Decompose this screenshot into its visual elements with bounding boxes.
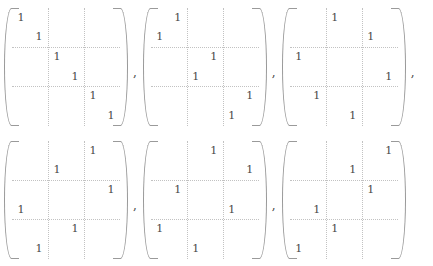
- cell-r1-c1: [290, 8, 308, 28]
- cell-r4-c2: [169, 66, 187, 86]
- cell-r2-c3: [187, 27, 205, 47]
- cell-r3-c5: [84, 180, 102, 200]
- cell-r1-c2: [308, 8, 326, 28]
- cell-r4-c1: [151, 199, 169, 219]
- matrix-separator: ,: [271, 66, 278, 78]
- cell-r2-c4: [205, 160, 223, 180]
- cell-r1-c5: 1: [84, 141, 102, 161]
- cell-r3-c1: [151, 180, 169, 200]
- cell-r5-c3: 1: [326, 219, 344, 239]
- cell-r1-c3: [326, 141, 344, 161]
- cell-r6-c5: 1: [223, 106, 241, 126]
- cell-r4-c5: [223, 66, 241, 86]
- cell-r3-c5: [223, 180, 241, 200]
- cell-r3-c2: [169, 47, 187, 67]
- cell-r6-c4: [66, 106, 84, 126]
- cell-r2-c3: [326, 27, 344, 47]
- matrix-4-body: 111111: [0, 141, 132, 259]
- cell-r2-c2: [169, 160, 187, 180]
- cell-r1-c5: [362, 8, 380, 28]
- cell-r3-c4: [344, 47, 362, 67]
- cell-r3-c3: 1: [48, 47, 66, 67]
- cell-r4-c5: [84, 66, 102, 86]
- cell-r4-c4: [205, 199, 223, 219]
- cell-r4-c2: [30, 199, 48, 219]
- cell-r2-c1: [12, 160, 30, 180]
- cell-r6-c2: [308, 239, 326, 259]
- cell-r1-c2: [169, 141, 187, 161]
- cell-r6-c1: [12, 239, 30, 259]
- cell-r6-c1: 1: [290, 239, 308, 259]
- cell-r1-c3: [187, 141, 205, 161]
- cell-r4-c5: [84, 199, 102, 219]
- cell-r6-c4: [344, 239, 362, 259]
- cell-r6-c3: [187, 106, 205, 126]
- cell-r6-c2: [169, 106, 187, 126]
- cell-r3-c4: [66, 180, 84, 200]
- cell-r2-c5: [223, 27, 241, 47]
- cell-r4-c4: 1: [66, 66, 84, 86]
- cell-r2-c4: [66, 160, 84, 180]
- cell-r5-c3: [48, 219, 66, 239]
- cell-r2-c3: [187, 160, 205, 180]
- cell-r1-c2: [30, 8, 48, 28]
- cell-r1-c3: [48, 141, 66, 161]
- cell-r3-c2: [308, 47, 326, 67]
- cell-r4-c3: 1: [187, 66, 205, 86]
- matrix-2-grid: 111111: [151, 8, 259, 126]
- matrix-row-2: 111111,111111,111111: [0, 133, 433, 266]
- cell-r5-c3: [187, 86, 205, 106]
- cell-r3-c5: [362, 47, 380, 67]
- cell-r1-c3: 1: [326, 8, 344, 28]
- right-parenthesis-icon: [398, 141, 407, 259]
- cell-r3-c2: [30, 180, 48, 200]
- left-parenthesis-icon: [281, 8, 290, 126]
- cell-r5-c2: [169, 219, 187, 239]
- cell-r2-c4: [205, 27, 223, 47]
- left-parenthesis-icon: [142, 8, 151, 126]
- cell-r4-c5: [362, 66, 380, 86]
- left-parenthesis-icon: [3, 8, 12, 126]
- cell-r6-c4: 1: [344, 106, 362, 126]
- cell-r4-c1: [290, 66, 308, 86]
- cell-r5-c5: [362, 219, 380, 239]
- cell-r2-c1: [151, 160, 169, 180]
- cell-r5-c5: [223, 86, 241, 106]
- cell-r4-c1: [290, 199, 308, 219]
- cell-r4-c2: [169, 199, 187, 219]
- cell-r1-c1: [151, 8, 169, 28]
- cell-r4-c3: [48, 66, 66, 86]
- matrix-4: 111111,: [0, 141, 139, 259]
- cell-r1-c2: [30, 141, 48, 161]
- cell-r4-c3: [326, 199, 344, 219]
- cell-r4-c4: [344, 199, 362, 219]
- cell-r5-c4: [66, 86, 84, 106]
- right-parenthesis-icon: [398, 8, 407, 126]
- cell-r2-c2: 1: [30, 27, 48, 47]
- cell-r4-c3: [326, 66, 344, 86]
- matrix-row-1: 111111,111111,111111,: [0, 0, 433, 133]
- cell-r3-c3: [48, 180, 66, 200]
- cell-r2-c5: [362, 160, 380, 180]
- cell-r3-c1: [290, 180, 308, 200]
- matrix-separator: ,: [271, 199, 278, 211]
- cell-r6-c2: [30, 106, 48, 126]
- cell-r2-c5: 1: [362, 27, 380, 47]
- matrix-3-grid: 111111: [290, 8, 398, 126]
- cell-r4-c4: [205, 66, 223, 86]
- cell-r3-c4: [66, 47, 84, 67]
- matrix-1-grid: 111111: [12, 8, 120, 126]
- cell-r4-c1: [12, 66, 30, 86]
- cell-r4-c3: [187, 199, 205, 219]
- cell-r2-c5: [223, 160, 241, 180]
- matrix-2: 111111,: [139, 8, 278, 126]
- left-parenthesis-icon: [142, 141, 151, 259]
- cell-r6-c4: [205, 239, 223, 259]
- cell-r5-c2: [30, 86, 48, 106]
- cell-r1-c1: 1: [12, 8, 30, 28]
- cell-r2-c1: 1: [151, 27, 169, 47]
- left-parenthesis-icon: [3, 141, 12, 259]
- cell-r5-c1: 1: [151, 219, 169, 239]
- matrix-6-grid: 111111: [290, 141, 398, 259]
- cell-r4-c5: [362, 199, 380, 219]
